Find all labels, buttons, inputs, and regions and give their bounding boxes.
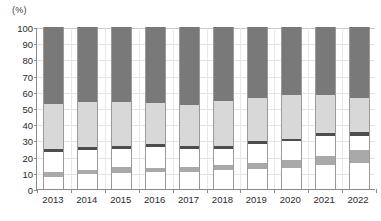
bar-segment-2020-segment-5-light-gray — [282, 95, 301, 139]
y-axis-tick-90: 90 — [22, 39, 33, 50]
bar-segment-2014-segment-5-light-gray — [78, 102, 97, 147]
bar-segment-2013-segment-6-dark-gray-top — [44, 27, 63, 104]
bar-segment-2014-segment-3-white-middle — [78, 150, 97, 170]
y-axis-tick-30: 30 — [22, 136, 33, 147]
column-separator — [308, 28, 309, 189]
bar-segment-2016-segment-3-white-middle — [146, 147, 165, 168]
column-separator — [274, 28, 275, 189]
bar-segment-2019-segment-3-white-middle — [248, 144, 267, 163]
x-axis-label-2022: 2022 — [338, 194, 378, 205]
y-tick-mark-90 — [34, 44, 37, 45]
x-tick-mark — [308, 189, 309, 193]
bar-segment-2017-segment-2-mid-gray — [180, 167, 199, 172]
bar-2014[interactable] — [77, 27, 98, 189]
x-tick-mark — [71, 189, 72, 193]
y-axis-unit-label: (%) — [12, 5, 27, 15]
bar-segment-2020-segment-4-dark-band — [282, 139, 301, 141]
y-axis-tick-20: 20 — [22, 152, 33, 163]
column-separator — [173, 28, 174, 189]
y-tick-mark-10 — [34, 174, 37, 175]
x-tick-mark — [376, 189, 377, 193]
bar-segment-2014-segment-6-dark-gray-top — [78, 27, 97, 102]
bar-2018[interactable] — [213, 27, 234, 189]
bar-segment-2020-segment-1-white-bottom — [282, 168, 301, 189]
bar-segment-2019-segment-4-dark-band — [248, 141, 267, 143]
bar-2015[interactable] — [111, 27, 132, 189]
bar-segment-2021-segment-4-dark-band — [316, 133, 335, 135]
stacked-bar-chart: (%) 0102030405060708090100 2013201420152… — [0, 0, 381, 221]
bar-segment-2017-segment-1-white-bottom — [180, 172, 199, 189]
bar-segment-2013-segment-5-light-gray — [44, 104, 63, 149]
bar-segment-2018-segment-5-light-gray — [214, 101, 233, 146]
x-tick-mark — [207, 189, 208, 193]
bar-segment-2021-segment-2-mid-gray — [316, 156, 335, 165]
column-separator — [342, 28, 343, 189]
y-tick-mark-100 — [34, 28, 37, 29]
bar-segment-2019-segment-5-light-gray — [248, 98, 267, 141]
bar-segment-2013-segment-1-white-bottom — [44, 177, 63, 189]
bar-segment-2022-segment-1-white-bottom — [350, 163, 369, 189]
bar-segment-2014-segment-4-dark-band — [78, 147, 97, 150]
y-tick-mark-50 — [34, 109, 37, 110]
bar-2019[interactable] — [247, 27, 268, 189]
bar-segment-2019-segment-2-mid-gray — [248, 163, 267, 169]
column-separator — [105, 28, 106, 189]
bar-segment-2018-segment-1-white-bottom — [214, 170, 233, 189]
y-tick-mark-30 — [34, 141, 37, 142]
bar-2021[interactable] — [315, 27, 336, 189]
bar-segment-2018-segment-6-dark-gray-top — [214, 27, 233, 101]
x-tick-mark — [240, 189, 241, 193]
bar-2022[interactable] — [349, 27, 370, 189]
bar-segment-2017-segment-3-white-middle — [180, 149, 199, 168]
y-tick-mark-70 — [34, 77, 37, 78]
bar-segment-2018-segment-4-dark-band — [214, 146, 233, 148]
bar-segment-2015-segment-2-mid-gray — [112, 167, 131, 173]
bar-segment-2015-segment-1-white-bottom — [112, 173, 131, 189]
bar-segment-2019-segment-1-white-bottom — [248, 169, 267, 189]
bar-2013[interactable] — [43, 27, 64, 189]
y-axis-tick-10: 10 — [22, 168, 33, 179]
bar-segment-2017-segment-6-dark-gray-top — [180, 27, 199, 105]
bar-segment-2022-segment-3-white-middle — [350, 136, 369, 151]
y-axis-tick-70: 70 — [22, 71, 33, 82]
bar-segment-2013-segment-4-dark-band — [44, 149, 63, 152]
bar-2020[interactable] — [281, 27, 302, 189]
y-tick-mark-80 — [34, 60, 37, 61]
y-tick-mark-20 — [34, 158, 37, 159]
x-tick-mark — [274, 189, 275, 193]
bar-2017[interactable] — [179, 27, 200, 189]
plot-area: 0102030405060708090100 — [36, 28, 375, 190]
column-separator — [240, 28, 241, 189]
bar-segment-2016-segment-1-white-bottom — [146, 172, 165, 189]
bar-segment-2022-segment-4-dark-band — [350, 132, 369, 135]
bar-segment-2018-segment-3-white-middle — [214, 149, 233, 165]
y-axis-tick-100: 100 — [17, 23, 33, 34]
bar-segment-2022-segment-5-light-gray — [350, 98, 369, 132]
y-axis-tick-80: 80 — [22, 55, 33, 66]
bar-segment-2021-segment-6-dark-gray-top — [316, 27, 335, 95]
bar-segment-2019-segment-6-dark-gray-top — [248, 27, 267, 98]
bar-segment-2015-segment-3-white-middle — [112, 149, 131, 168]
bar-segment-2022-segment-2-mid-gray — [350, 150, 369, 163]
bar-segment-2021-segment-3-white-middle — [316, 136, 335, 156]
bar-segment-2015-segment-4-dark-band — [112, 146, 131, 148]
bar-segment-2014-segment-2-mid-gray — [78, 170, 97, 174]
bar-segment-2021-segment-1-white-bottom — [316, 165, 335, 189]
bar-2016[interactable] — [145, 27, 166, 189]
bar-segment-2013-segment-2-mid-gray — [44, 172, 63, 177]
bar-segment-2020-segment-6-dark-gray-top — [282, 27, 301, 95]
column-separator — [207, 28, 208, 189]
bar-segment-2020-segment-2-mid-gray — [282, 160, 301, 168]
bar-segment-2013-segment-3-white-middle — [44, 152, 63, 172]
bar-segment-2016-segment-5-light-gray — [146, 103, 165, 144]
y-tick-mark-40 — [34, 125, 37, 126]
y-axis-tick-60: 60 — [22, 87, 33, 98]
x-tick-mark — [37, 189, 38, 193]
bar-segment-2015-segment-6-dark-gray-top — [112, 27, 131, 102]
column-separator — [71, 28, 72, 189]
bar-segment-2017-segment-5-light-gray — [180, 105, 199, 146]
bar-segment-2020-segment-3-white-middle — [282, 141, 301, 160]
bar-segment-2017-segment-4-dark-band — [180, 146, 199, 148]
y-tick-mark-60 — [34, 93, 37, 94]
x-tick-mark — [139, 189, 140, 193]
